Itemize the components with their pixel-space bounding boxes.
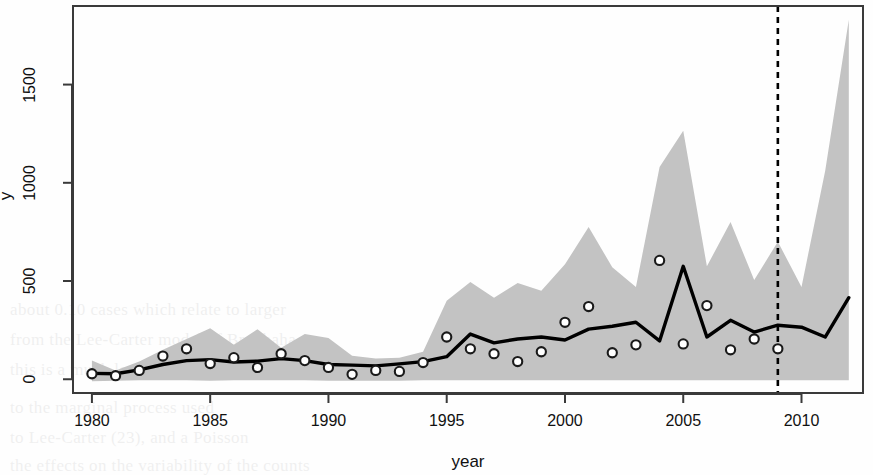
x-tick-label: 1995 [429,412,465,430]
figure-root: about 0.10 cases which relate to larger … [0,0,873,475]
x-tick-label: 1980 [74,412,110,430]
chart-canvas [0,0,873,475]
y-tick-label: 1000 [21,165,39,201]
x-tick-label: 1990 [311,412,347,430]
x-tick-label: 2010 [784,412,820,430]
y-tick-label: 0 [21,375,39,384]
y-tick-label: 500 [21,268,39,295]
x-tick-label: 1985 [192,412,228,430]
x-tick-label: 2005 [665,412,701,430]
x-tick-label: 2000 [547,412,583,430]
uncertainty-band [92,20,849,381]
y-axis-title: y [0,192,16,201]
x-axis-title: year [451,452,484,472]
y-tick-label: 1500 [21,67,39,103]
